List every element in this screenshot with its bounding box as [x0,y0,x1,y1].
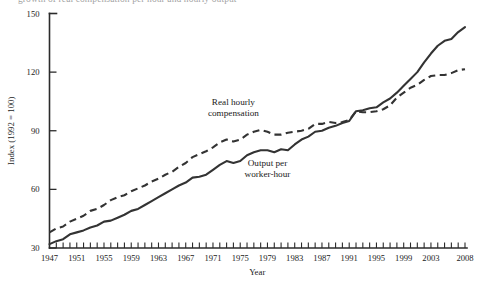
annotation-line-2: worker-hour [245,169,291,179]
x-tick-label: 1947 [41,253,59,263]
annotation-line-1: Real hourly [212,97,256,107]
x-tick-label: 2008 [456,253,473,263]
x-tick-label: 1959 [123,253,140,263]
x-tick-label: 1983 [286,253,303,263]
y-tick-label: 150 [27,9,40,19]
x-tick-label: 1987 [313,253,331,263]
x-tick-label: 1999 [395,253,412,263]
chart-ticks: 3060901201501947195119551959196319671971… [27,9,474,263]
x-tick-label: 1975 [232,253,249,263]
x-tick-label: 1979 [259,253,276,263]
figure-root: growth of real compensation per hour and… [0,0,479,281]
annotation-line-1: Output per [248,158,288,168]
x-tick-label: 1955 [95,253,112,263]
chart-labels: YearIndex (1992 = 100)Real hourlycompens… [6,97,290,277]
annotation-line-2: compensation [208,108,259,118]
chart-series [50,27,466,244]
x-tick-label: 1991 [341,253,358,263]
x-tick-label: 1971 [204,253,221,263]
y-tick-label: 60 [31,184,40,194]
series-line-output-per-worker-hour [50,27,466,244]
y-tick-label: 120 [27,67,40,77]
y-axis-title: Index (1992 = 100) [6,97,16,165]
line-chart: 3060901201501947195119551959196319671971… [0,0,479,281]
series-annotation-output-per-worker-hour: Output perworker-hour [245,158,291,179]
y-tick-label: 30 [31,243,40,253]
series-annotation-real-hourly-compensation: Real hourlycompensation [208,97,259,118]
x-tick-label: 1995 [368,253,385,263]
y-tick-label: 90 [31,126,40,136]
x-tick-label: 1967 [177,253,195,263]
x-tick-label: 1951 [68,253,85,263]
x-tick-label: 2003 [422,253,439,263]
x-axis-title: Year [249,267,265,277]
x-tick-label: 1963 [150,253,167,263]
